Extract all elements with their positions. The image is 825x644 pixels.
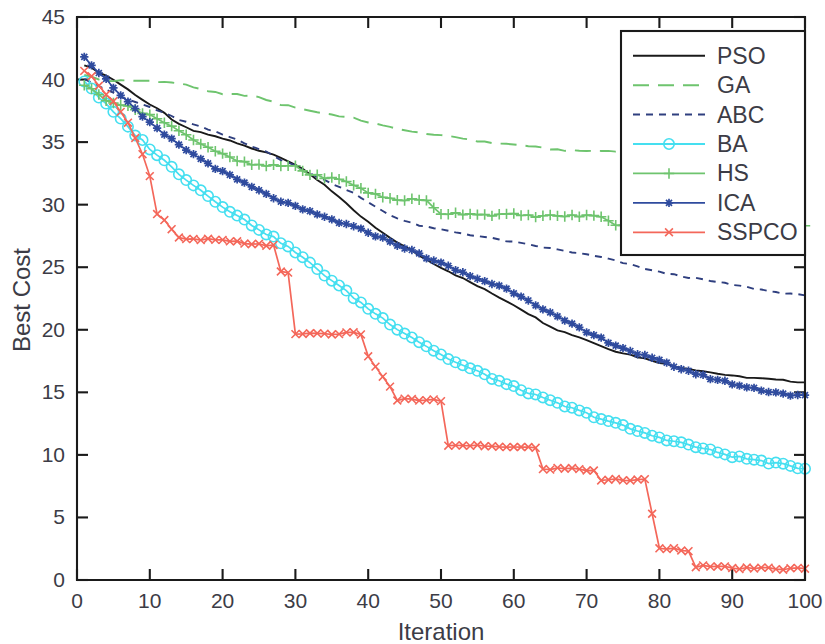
- series-marker: [721, 377, 729, 385]
- series-marker: [633, 350, 641, 358]
- series-marker: [481, 277, 489, 285]
- series-marker: [168, 225, 176, 233]
- legend: PSOGAABCBAHSICASSPCO: [621, 31, 805, 255]
- legend-label-pso: PSO: [717, 43, 766, 69]
- series-marker: [189, 150, 197, 158]
- series-marker: [568, 319, 576, 327]
- series-marker: [663, 359, 671, 367]
- series-marker: [175, 140, 183, 148]
- series-marker: [254, 159, 264, 169]
- series-marker: [786, 391, 794, 399]
- best-cost-convergence-chart: 051015202530354045 010203040506070809010…: [0, 0, 825, 644]
- series-marker: [539, 305, 547, 313]
- series-marker: [372, 363, 380, 371]
- series-marker: [262, 190, 270, 198]
- series-marker: [692, 370, 700, 378]
- series-marker: [531, 301, 539, 309]
- series-marker: [226, 171, 234, 179]
- y-tick-label: 45: [42, 5, 65, 28]
- series-marker: [364, 352, 372, 360]
- series-marker: [153, 124, 161, 132]
- series-marker: [415, 249, 423, 257]
- y-tick-label: 0: [53, 568, 65, 591]
- series-marker: [218, 167, 226, 175]
- series-marker: [87, 61, 95, 69]
- x-tick-label: 60: [502, 589, 525, 612]
- series-marker: [488, 280, 496, 288]
- series-marker: [80, 67, 88, 75]
- series-marker: [160, 130, 168, 138]
- series-marker: [641, 351, 649, 359]
- series-marker: [473, 275, 481, 283]
- series-marker: [582, 328, 590, 336]
- series-marker: [233, 175, 241, 183]
- y-tick-label: 15: [42, 380, 65, 403]
- series-marker: [408, 246, 416, 254]
- series-marker: [735, 382, 743, 390]
- series-marker: [269, 194, 277, 202]
- x-tick-label: 10: [138, 589, 161, 612]
- series-marker: [124, 97, 132, 105]
- series-marker: [670, 363, 678, 371]
- series-marker: [379, 373, 387, 381]
- series-marker: [437, 258, 445, 266]
- series-marker: [299, 205, 307, 213]
- series-marker: [284, 199, 292, 207]
- series-marker: [546, 308, 554, 316]
- series-marker: [363, 188, 373, 198]
- series-marker: [612, 341, 620, 349]
- series-marker: [655, 356, 663, 364]
- series-marker: [545, 210, 555, 220]
- x-tick-label: 90: [721, 589, 744, 612]
- series-marker: [699, 371, 707, 379]
- series-marker: [713, 376, 721, 384]
- series-marker: [648, 354, 656, 362]
- series-marker: [757, 386, 765, 394]
- series-marker: [626, 347, 634, 355]
- series-marker: [131, 104, 139, 112]
- series-marker: [794, 391, 802, 399]
- y-tick-label: 35: [42, 130, 65, 153]
- legend-label-sspco: SSPCO: [717, 219, 798, 245]
- series-marker: [479, 209, 489, 219]
- series-marker: [385, 193, 395, 203]
- series-marker: [422, 254, 430, 262]
- legend-label-abc: ABC: [717, 102, 764, 128]
- series-marker: [509, 208, 519, 218]
- series-marker: [80, 53, 88, 61]
- series-marker: [495, 282, 503, 290]
- series-marker: [393, 242, 401, 250]
- series-marker: [510, 289, 518, 297]
- series-marker: [764, 388, 772, 396]
- series-marker: [430, 256, 438, 264]
- x-tick-label: 100: [787, 589, 822, 612]
- legend-label-ica: ICA: [717, 190, 756, 216]
- series-marker: [167, 134, 175, 142]
- series-marker: [117, 91, 125, 99]
- x-tick-label: 30: [284, 589, 307, 612]
- series-marker: [160, 216, 168, 224]
- series-marker: [772, 388, 780, 396]
- series-marker: [574, 211, 584, 221]
- series-marker: [590, 331, 598, 339]
- series-marker: [342, 220, 350, 228]
- series-marker: [328, 215, 336, 223]
- series-marker: [706, 375, 714, 383]
- series-marker: [204, 159, 212, 167]
- y-tick-label: 25: [42, 255, 65, 278]
- x-tick-label: 0: [71, 589, 83, 612]
- y-tick-label: 30: [42, 193, 65, 216]
- series-marker: [743, 383, 751, 391]
- y-tick-label: 10: [42, 443, 65, 466]
- series-marker: [182, 146, 190, 154]
- series-marker: [364, 229, 372, 237]
- series-marker: [109, 84, 117, 92]
- series-marker: [268, 159, 278, 169]
- series-marker: [517, 292, 525, 300]
- legend-label-ga: GA: [717, 72, 751, 98]
- series-marker: [561, 316, 569, 324]
- series-marker: [619, 344, 627, 352]
- series-marker: [443, 209, 453, 219]
- series-marker: [211, 165, 219, 173]
- x-tick-label: 50: [429, 589, 452, 612]
